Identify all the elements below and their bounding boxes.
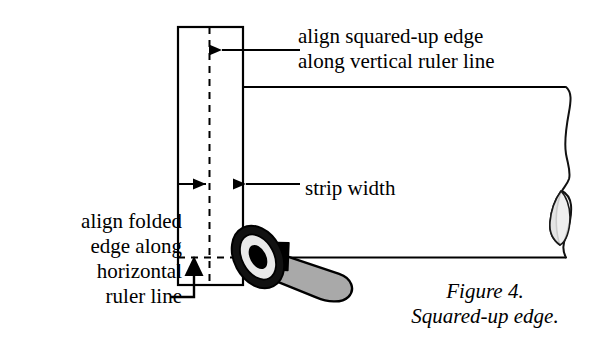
callout-squared-up-line-2: along vertical ruler line [298, 49, 495, 74]
callout-folded-line-1: align folded [6, 209, 182, 234]
figure-squared-up-edge: align squared-up edge along vertical rul… [0, 0, 593, 353]
figure-caption: Figure 4. Squared-up edge. [385, 279, 585, 329]
callout-strip-width: strip width [305, 176, 395, 201]
fabric-sheet [243, 87, 571, 258]
callout-folded-line-2: edge along [6, 234, 182, 259]
callout-squared-up-line-1: align squared-up edge [298, 24, 495, 49]
callout-align-squared-up-edge: align squared-up edge along vertical rul… [298, 24, 495, 74]
figure-caption-title: Squared-up edge. [385, 304, 585, 329]
figure-caption-number: Figure 4. [385, 279, 585, 304]
callout-folded-line-3: horizontal [6, 259, 182, 284]
arrow-up-icon [185, 256, 204, 276]
fabric-fold-shade-light [550, 191, 570, 245]
callout-folded-line-4: ruler line [6, 284, 182, 309]
callout-align-folded-edge: align folded edge along horizontal ruler… [6, 209, 182, 309]
callout-strip-width-label: strip width [305, 176, 395, 201]
dimension-strip-width [178, 172, 300, 196]
